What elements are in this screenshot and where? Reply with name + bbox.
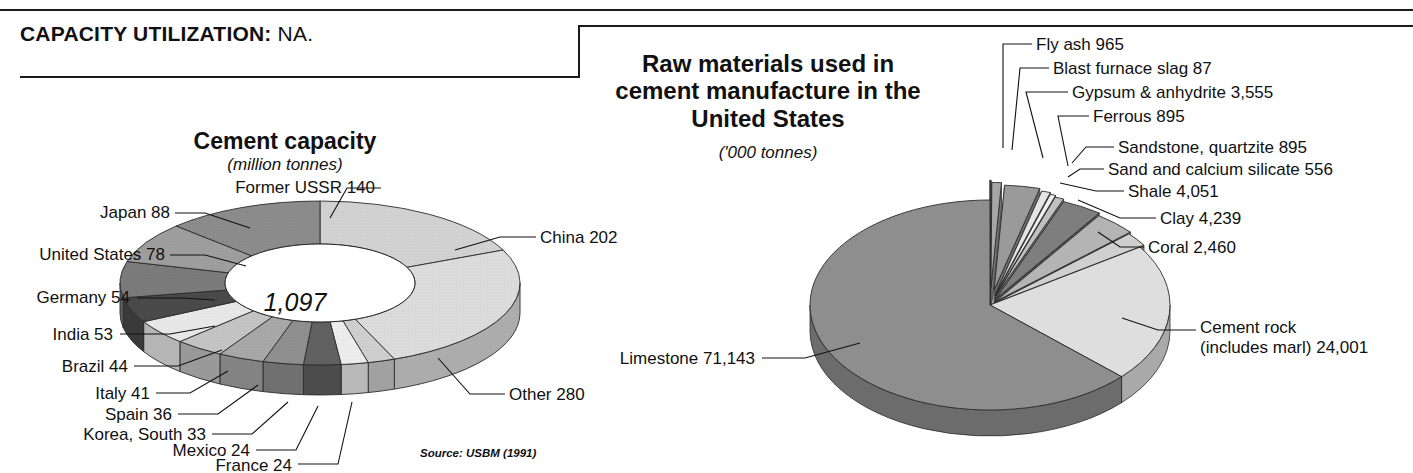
label-shale: Shale 4,051 [1128, 182, 1219, 202]
section-divider-lower [20, 76, 580, 78]
label-blast-furnace-slag: Blast furnace slag 87 [1053, 59, 1212, 79]
label-sandstone-quartzite: Sandstone, quartzite 895 [1118, 138, 1307, 158]
label-ferrous: Ferrous 895 [1093, 107, 1185, 127]
label-former-ussr: Former USSR 140 [215, 178, 375, 198]
section-divider-upper [578, 25, 1413, 27]
doughnut-outer-wall [263, 362, 303, 395]
label-spain: Spain 36 [0, 405, 172, 425]
label-japan: Japan 88 [60, 203, 170, 223]
label-cement-rock-line1: Cement rock [1200, 318, 1368, 338]
capacity-utilization-line: CAPACITY UTILIZATION: NA. [20, 22, 313, 46]
label-italy: Italy 41 [0, 384, 150, 404]
source-note: Source: USBM (1991) [420, 447, 536, 459]
label-france: France 24 [0, 456, 292, 473]
label-brazil: Brazil 44 [0, 357, 128, 377]
section-divider-step [578, 25, 580, 78]
capacity-utilization-label: CAPACITY UTILIZATION: [20, 22, 272, 45]
label-other: Other 280 [509, 385, 585, 405]
label-gypsum-anhydrite: Gypsum & anhydrite 3,555 [1072, 83, 1273, 103]
top-border-line [0, 9, 1413, 11]
label-fly-ash: Fly ash 965 [1036, 35, 1124, 55]
label-united-states: United States 78 [0, 245, 165, 265]
label-china: China 202 [540, 228, 618, 248]
label-limestone: Limestone 71,143 [545, 349, 755, 369]
label-sand-calcium-silicate: Sand and calcium silicate 556 [1108, 160, 1333, 180]
doughnut-outer-wall [303, 365, 341, 395]
label-cement-rock: Cement rock (includes marl) 24,001 [1200, 318, 1368, 358]
figure-page: CAPACITY UTILIZATION: NA. Cement capacit… [0, 0, 1413, 473]
label-cement-rock-line2: (includes marl) 24,001 [1200, 338, 1368, 358]
left-chart-title: Cement capacity [120, 128, 450, 154]
doughnut-outer-wall [368, 359, 394, 392]
doughnut-center-value: 1,097 [235, 288, 355, 317]
label-coral: Coral 2,460 [1148, 238, 1236, 258]
capacity-utilization-value: NA. [278, 22, 314, 45]
left-chart-subtitle: (million tonnes) [120, 155, 450, 175]
doughnut-outer-wall [341, 363, 368, 395]
label-india: India 53 [0, 325, 113, 345]
label-germany: Germany 54 [0, 288, 130, 308]
label-clay: Clay 4,239 [1160, 209, 1241, 229]
